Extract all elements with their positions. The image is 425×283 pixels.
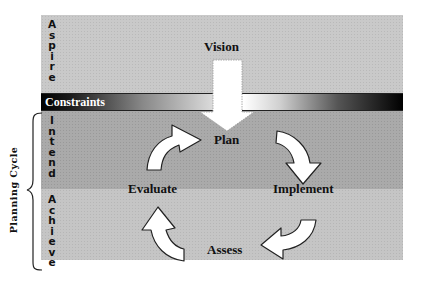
- down-arrow-icon: [200, 60, 254, 131]
- curved-arrow-icon: [276, 131, 321, 184]
- vision-label: Vision: [204, 39, 239, 55]
- plan-label: Plan: [214, 132, 239, 148]
- curved-arrow-icon: [261, 220, 316, 259]
- curved-arrow-icon: [147, 125, 201, 170]
- brace-icon: [27, 113, 42, 270]
- implement-label: Implement: [273, 181, 334, 197]
- evaluate-label: Evaluate: [128, 181, 177, 197]
- assess-label: Assess: [207, 242, 242, 258]
- planning-cycle-label: Planning Cycle: [8, 135, 22, 245]
- curved-arrow-icon: [142, 207, 184, 261]
